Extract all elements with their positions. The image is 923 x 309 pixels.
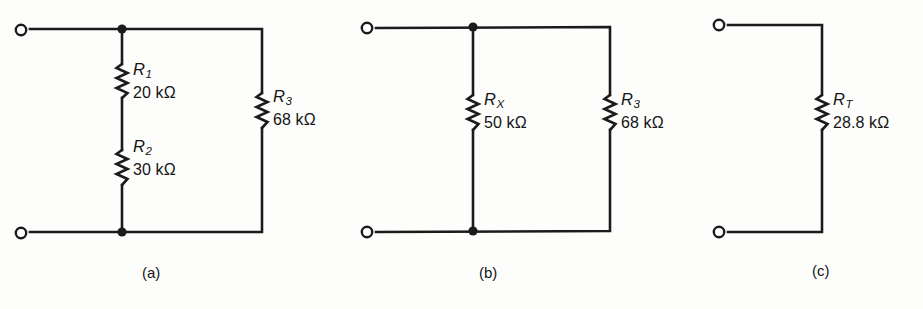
caption-c: (c) <box>812 262 830 279</box>
label-R3-a-value: 68 kΩ <box>273 111 316 130</box>
label-R1-value: 20 kΩ <box>133 84 176 103</box>
label-RT: RT 28.8 kΩ <box>833 90 889 132</box>
label-R1: R1 20 kΩ <box>133 60 176 102</box>
resistor-R3-symbol <box>257 93 268 128</box>
label-R3-b-value: 68 kΩ <box>621 114 664 133</box>
circuit-a-bottom-node-dot <box>117 227 126 236</box>
label-RX-value: 50 kΩ <box>484 114 527 133</box>
label-R3-a: R3 68 kΩ <box>273 87 316 129</box>
circuit-a-top-node-dot <box>117 24 126 33</box>
circuit-a-top-left-terminal <box>16 25 26 35</box>
resistor-network-figure: R1 20 kΩ R2 30 kΩ R3 68 kΩ RX 50 kΩ R3 6… <box>0 0 923 309</box>
circuit-b-bottom-node-dot <box>468 226 477 235</box>
circuit-c-group <box>714 20 828 237</box>
label-R3-b-symbol: R3 <box>621 90 664 114</box>
circuit-a-bottom-left-terminal <box>16 228 26 238</box>
label-RT-symbol: RT <box>833 90 889 114</box>
label-R2-symbol: R2 <box>133 137 176 161</box>
resistor-RX-symbol <box>468 95 479 130</box>
circuit-c-outer-wire <box>728 25 822 232</box>
resistor-R1-symbol <box>117 64 128 98</box>
caption-a: (a) <box>142 264 160 281</box>
label-R2-value: 30 kΩ <box>133 161 176 180</box>
caption-b: (b) <box>479 264 497 281</box>
circuit-b-top-left-terminal <box>362 23 372 33</box>
label-RX: RX 50 kΩ <box>484 90 527 132</box>
label-R3-b: R3 68 kΩ <box>621 90 664 132</box>
label-RT-value: 28.8 kΩ <box>833 114 889 133</box>
label-RX-symbol: RX <box>484 90 527 114</box>
circuit-a-group <box>16 24 268 238</box>
circuit-c-bottom-left-terminal <box>714 227 724 237</box>
resistor-R3-symbol-b <box>605 95 616 130</box>
circuit-b-top-node-dot <box>468 22 477 31</box>
circuit-b-bottom-left-terminal <box>362 227 372 237</box>
resistor-R2-symbol <box>117 150 128 185</box>
resistor-RT-symbol <box>817 95 828 130</box>
label-R3-a-symbol: R3 <box>273 87 316 111</box>
circuit-c-top-left-terminal <box>714 20 724 30</box>
label-R1-symbol: R1 <box>133 60 176 84</box>
label-R2: R2 30 kΩ <box>133 137 176 179</box>
